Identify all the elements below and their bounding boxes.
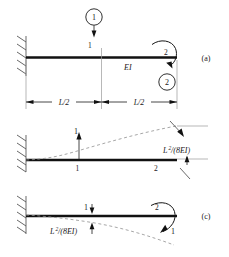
dimension-left-a: L/2 xyxy=(26,98,102,107)
dimension-label-left-a: L/2 xyxy=(58,98,70,107)
unit-force-value-label-c: 1 xyxy=(84,203,88,212)
unit-force-c: 1 xyxy=(84,203,94,214)
deflection-label-b: L 2 /(8EI) xyxy=(162,145,190,156)
unit-force-b: 1 1 xyxy=(74,127,82,173)
fixed-support-c xyxy=(17,196,26,234)
part-label-a: (a) xyxy=(202,54,211,63)
deflection-denominator-c: /(8EI) xyxy=(57,227,77,236)
panel-a: 1 1 EI 2 2 xyxy=(17,9,211,109)
node-2-label-a: 2 xyxy=(164,48,168,57)
panel-c: 1 2 1 L 2 /(8EI) xyxy=(17,196,211,245)
dimension-label-right-a: L/2 xyxy=(133,98,145,107)
dof-2-marker-a: 2 xyxy=(159,74,175,90)
figure-container: 1 1 EI 2 2 xyxy=(0,0,229,257)
rotation-indicator-b xyxy=(170,121,184,137)
dof-2-circle-label: 2 xyxy=(165,78,169,87)
node-1-label-a: 1 xyxy=(88,41,92,50)
deflection-denominator-b: /(8EI) xyxy=(170,146,190,155)
deflection-dimension-c xyxy=(90,223,95,235)
dimension-right-a: L/2 xyxy=(102,98,178,107)
node-1-label-b: 1 xyxy=(76,164,80,173)
unit-moment-value-label-c: 1 xyxy=(171,227,175,236)
node-2-label-c: 2 xyxy=(155,203,159,212)
deflection-base-b: L xyxy=(162,146,168,155)
unit-force-value-label-b: 1 xyxy=(74,127,78,136)
beam-diagram-svg: 1 1 EI 2 2 xyxy=(0,0,229,257)
panel-b: 1 1 2 L 2 /(8EI) xyxy=(17,121,208,179)
deflection-curve-c xyxy=(26,215,174,245)
part-label-c: (c) xyxy=(202,212,211,221)
node-2-label-b: 2 xyxy=(154,164,158,173)
fixed-support-a xyxy=(17,36,26,76)
deflection-label-c: L 2 /(8EI) xyxy=(49,226,77,237)
beam-property-label-a: EI xyxy=(123,63,132,72)
deflection-base-c: L xyxy=(49,227,55,236)
dof-1-circle-label: 1 xyxy=(92,13,96,22)
dof-1-marker-a: 1 1 xyxy=(86,9,102,50)
fixed-support-b xyxy=(17,135,26,172)
deflection-curve-b xyxy=(26,126,176,160)
